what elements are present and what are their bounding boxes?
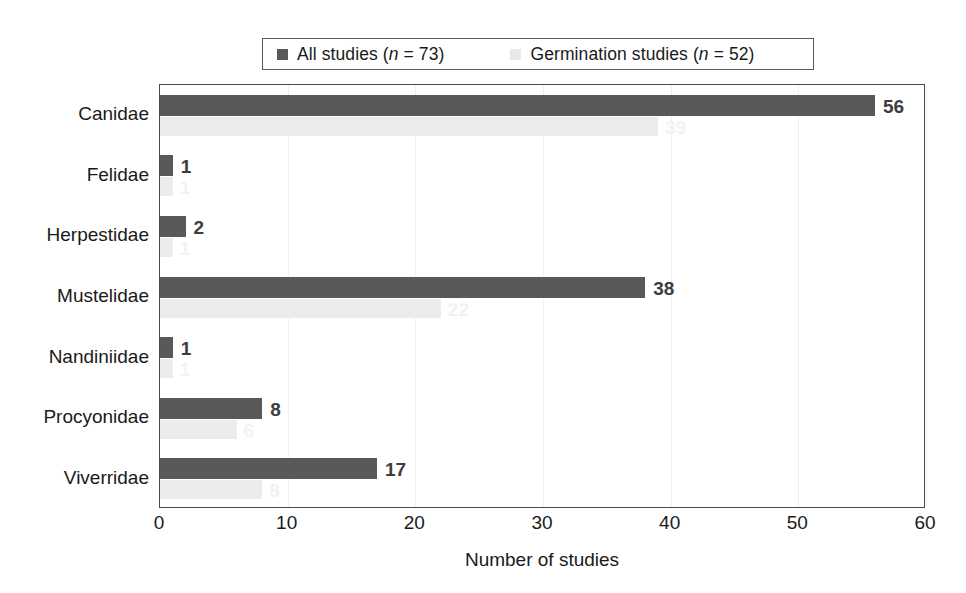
y-axis-category-labels: CanidaeFelidaeHerpestidaeMustelidaeNandi… [0, 84, 149, 508]
bar-value-all-studies: 56 [883, 97, 904, 116]
bar-group: 11 [160, 155, 924, 196]
legend-swatch-all-studies [277, 49, 288, 60]
bar-chart: All studies (n = 73) Germination studies… [0, 0, 966, 593]
y-axis-label-herpestidae: Herpestidae [47, 224, 149, 246]
bar-value-germination-studies: 1 [180, 178, 191, 197]
bars-layer: 3956111222381168817 [160, 85, 924, 507]
bar-germination-studies [160, 420, 237, 439]
bar-value-germination-studies: 1 [180, 360, 191, 379]
bar-value-all-studies: 1 [181, 157, 192, 176]
bar-all-studies [160, 155, 173, 176]
bar-group: 12 [160, 216, 924, 257]
bar-value-all-studies: 38 [653, 279, 674, 298]
x-axis-tick-20: 20 [404, 512, 425, 534]
bar-value-germination-studies: 22 [448, 300, 469, 319]
bar-group: 817 [160, 458, 924, 499]
bar-all-studies [160, 277, 645, 298]
bar-germination-studies [160, 238, 173, 257]
bar-germination-studies [160, 299, 441, 318]
y-axis-label-viverridae: Viverridae [64, 467, 149, 489]
bar-group: 11 [160, 337, 924, 378]
bar-all-studies [160, 216, 186, 237]
x-axis-tick-40: 40 [659, 512, 680, 534]
bar-value-all-studies: 1 [181, 339, 192, 358]
x-axis-tick-10: 10 [276, 512, 297, 534]
y-axis-label-canidae: Canidae [78, 103, 149, 125]
legend-swatch-germination-studies [510, 49, 521, 60]
y-axis-label-felidae: Felidae [87, 164, 149, 186]
bar-group: 3956 [160, 95, 924, 136]
bar-value-germination-studies: 1 [180, 239, 191, 258]
bar-value-germination-studies: 6 [244, 421, 255, 440]
bar-germination-studies [160, 177, 173, 196]
bar-value-germination-studies: 8 [269, 481, 280, 500]
x-axis-tick-30: 30 [531, 512, 552, 534]
legend-label-germination-studies: Germination studies (n = 52) [530, 44, 754, 65]
bar-value-all-studies: 8 [270, 400, 281, 419]
bar-all-studies [160, 95, 875, 116]
bar-germination-studies [160, 117, 658, 136]
x-axis-tick-60: 60 [914, 512, 935, 534]
legend-item-all-studies: All studies (n = 73) [277, 44, 444, 65]
bar-value-all-studies: 17 [385, 460, 406, 479]
x-axis-tick-50: 50 [787, 512, 808, 534]
x-axis-tick-0: 0 [154, 512, 165, 534]
x-axis-tick-labels: 0102030405060 [159, 512, 925, 542]
gridline [926, 85, 927, 507]
y-axis-label-procyonidae: Procyonidae [43, 406, 149, 428]
bar-group: 2238 [160, 277, 924, 318]
y-axis-label-mustelidae: Mustelidae [57, 285, 149, 307]
plot-area: 3956111222381168817 [159, 84, 925, 508]
bar-germination-studies [160, 359, 173, 378]
legend-item-germination-studies: Germination studies (n = 52) [510, 44, 754, 65]
legend-label-all-studies: All studies (n = 73) [297, 44, 444, 65]
legend-italic-n-germ: n [699, 44, 709, 64]
chart-legend: All studies (n = 73) Germination studies… [262, 38, 814, 70]
bar-all-studies [160, 458, 377, 479]
bar-value-germination-studies: 39 [665, 118, 686, 137]
bar-all-studies [160, 337, 173, 358]
y-axis-label-nandiniidae: Nandiniidae [49, 346, 149, 368]
legend-italic-n-all: n [389, 44, 399, 64]
bar-group: 68 [160, 398, 924, 439]
bar-all-studies [160, 398, 262, 419]
bar-value-all-studies: 2 [194, 218, 205, 237]
bar-germination-studies [160, 480, 262, 499]
x-axis-title: Number of studies [159, 549, 925, 571]
